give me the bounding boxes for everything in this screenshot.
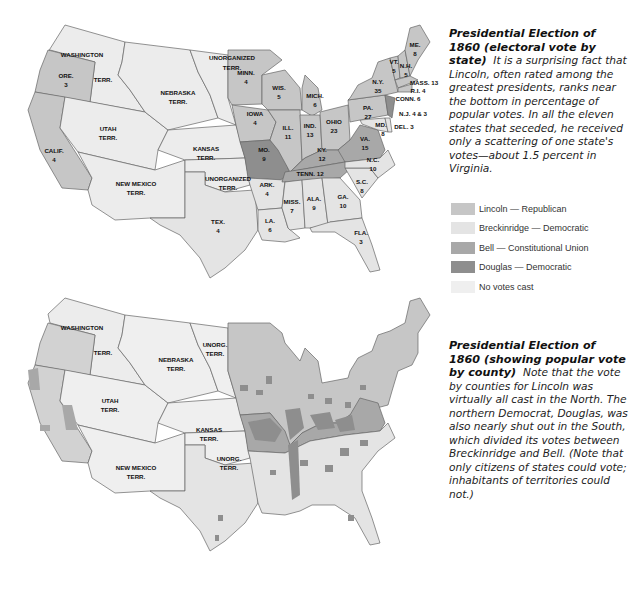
label-vt-votes: 5 [392, 67, 396, 74]
label-nebraska-terr: TERR. [169, 98, 188, 105]
label-ill: ILL. [283, 124, 294, 131]
label-ky-votes: 12 [319, 155, 326, 162]
label-me: ME. [409, 41, 420, 48]
label-ohio-votes: 23 [331, 127, 338, 134]
county-vote-map: WASHINGTON TERR. NEBRASKA TERR. UNORG. T… [0, 290, 440, 590]
label-kansas-terr: TERR. [200, 435, 219, 442]
label-ky: KY. [317, 146, 327, 153]
label-washington-terr: TERR. [94, 76, 113, 83]
label-del: DEL. 3 [394, 123, 414, 130]
label-nebraska: NEBRASKA [158, 356, 194, 363]
label-vt: VT. [390, 58, 399, 65]
label-ark: ARK. [259, 181, 274, 188]
label-wis-votes: 5 [277, 93, 281, 100]
label-la-votes: 6 [268, 226, 272, 233]
label-miss: MISS. [284, 198, 301, 205]
label-ore-votes: 3 [64, 81, 68, 88]
label-washington-terr: TERR. [94, 349, 113, 356]
label-iowa-votes: 4 [253, 119, 257, 126]
label-ny: N.Y. [372, 78, 384, 85]
label-ga: GA. [337, 193, 348, 200]
label-minn: MINN. [237, 69, 255, 76]
legend-label: No votes cast [479, 282, 534, 292]
label-washington: WASHINGTON [61, 324, 104, 331]
caption-body: Note that the vote by counties for Linco… [449, 366, 628, 500]
label-unorganized-south: UNORGANIZED [205, 175, 252, 182]
label-nc-votes: 10 [370, 165, 377, 172]
label-ala: ALA. [307, 195, 322, 202]
legend-label: Lincoln — Republican [479, 204, 567, 214]
legend-item-no-votes: No votes cast [451, 277, 631, 297]
label-unorg-south: UNORG. [217, 455, 242, 462]
label-unorganized-south-terr: TERR. [219, 184, 238, 191]
label-miss-votes: 7 [290, 207, 294, 214]
label-nh-votes: 5 [404, 71, 408, 78]
swatch-breckinridge [451, 222, 475, 234]
label-mo-votes: 9 [262, 155, 266, 162]
label-new-mexico-terr: TERR. [127, 473, 146, 480]
swatch-douglas [451, 261, 475, 273]
caption-body: It is a surprising fact that Lincoln, of… [449, 54, 627, 174]
label-sc: S.C. [356, 178, 368, 185]
label-washington: WASHINGTON [61, 51, 104, 58]
label-ind: IND. [304, 122, 317, 129]
caption-electoral-vote: Presidential Election of 1860 (electoral… [449, 27, 629, 176]
label-ill-votes: 11 [285, 133, 292, 140]
label-la: LA. [265, 217, 275, 224]
label-utah: UTAH [102, 397, 119, 404]
legend-item-breckinridge: Breckinridge — Democratic [451, 219, 631, 239]
legend-label: Douglas — Democratic [479, 262, 572, 272]
swatch-bell [451, 242, 475, 254]
label-ind-votes: 13 [307, 131, 314, 138]
legend-item-bell: Bell — Constitutional Union [451, 238, 631, 258]
label-ala-votes: 9 [312, 204, 316, 211]
label-md-votes: 8 [381, 130, 385, 137]
label-wis: WIS. [272, 84, 286, 91]
caption-county-vote: Presidential Election of 1860 (showing p… [449, 339, 629, 501]
label-fla: FLA. [354, 229, 368, 236]
label-sc-votes: 8 [360, 187, 364, 194]
label-new-mexico: NEW MEXICO [116, 464, 157, 471]
label-utah-terr: TERR. [99, 134, 118, 141]
label-nh: N.H. [400, 62, 413, 69]
label-nebraska: NEBRASKA [160, 89, 196, 96]
label-me-votes: 8 [413, 50, 417, 57]
label-nebraska-terr: TERR. [167, 365, 186, 372]
label-ga-votes: 10 [340, 202, 347, 209]
label-mich-votes: 6 [313, 101, 317, 108]
label-tex: TEX. [211, 218, 225, 225]
label-ohio: OHIO [326, 118, 342, 125]
label-tex-votes: 4 [216, 227, 220, 234]
label-va: VA. [360, 135, 370, 142]
label-calif: CALIF. [44, 147, 64, 154]
legend-label: Breckinridge — Democratic [479, 223, 589, 233]
legend-label: Bell — Constitutional Union [479, 243, 589, 253]
label-utah-terr: TERR. [101, 406, 120, 413]
label-mo: MO. [258, 146, 270, 153]
label-mich: MICH. [306, 92, 324, 99]
swatch-no-votes [451, 281, 475, 293]
label-nj: N.J. 4 & 3 [399, 110, 427, 117]
label-va-votes: 15 [362, 144, 369, 151]
label-minn-votes: 4 [244, 78, 248, 85]
label-unorganized-north: UNORGANIZED [209, 54, 256, 61]
label-nc: N.C. [367, 156, 380, 163]
region-florida [310, 218, 380, 272]
label-iowa: IOWA [247, 110, 264, 117]
label-pa: PA. [363, 104, 373, 111]
label-ark-votes: 4 [265, 190, 269, 197]
label-unorg-north: UNORG. [203, 341, 228, 348]
label-kansas: KANSAS [196, 426, 222, 433]
label-ny-votes: 35 [375, 87, 382, 94]
label-tenn: TENN. 12 [296, 170, 324, 177]
label-mass: MASS. 13 [410, 79, 439, 86]
legend-item-lincoln: Lincoln — Republican [451, 199, 631, 219]
label-conn: CONN. 6 [395, 95, 421, 102]
electoral-vote-map: WASHINGTON TERR. ORE. 3 CALIF. 4 UTAH TE… [0, 0, 440, 300]
swatch-lincoln [451, 203, 475, 215]
label-calif-votes: 4 [52, 156, 56, 163]
label-unorg-north-terr: TERR. [206, 350, 225, 357]
label-kansas-terr: TERR. [197, 154, 216, 161]
map-legend: Lincoln — Republican Breckinridge — Demo… [451, 199, 631, 297]
label-kansas: KANSAS [193, 145, 219, 152]
